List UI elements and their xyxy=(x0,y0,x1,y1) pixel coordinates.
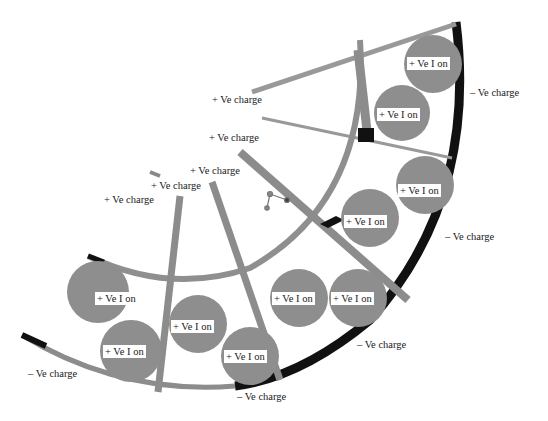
ion-label: + Ve I on xyxy=(171,320,214,333)
ion-label: + Ve I on xyxy=(398,184,441,197)
spoke-5 xyxy=(150,172,160,176)
positive-charge-label: + Ve charge xyxy=(212,94,262,106)
negative-charge-label: – Ve charge xyxy=(443,231,496,243)
ion-label: + Ve I on xyxy=(103,345,146,358)
spoke-4 xyxy=(158,196,180,392)
positive-charge-label: + Ve charge xyxy=(209,132,259,144)
negative-charge-label: – Ve charge xyxy=(468,87,521,99)
diagram-graphic xyxy=(0,0,548,421)
ion-label: + Ve I on xyxy=(377,108,420,121)
positive-charge-label: + Ve charge xyxy=(190,165,240,177)
ion-label: + Ve I on xyxy=(407,57,450,70)
inner-arc xyxy=(88,40,361,279)
junction-block xyxy=(358,128,374,142)
negative-charge-label: – Ve charge xyxy=(26,368,79,380)
ion-label: + Ve I on xyxy=(344,215,387,228)
negative-charge-label: – Ve charge xyxy=(355,339,408,351)
ion-channel-diagram: + Ve I on+ Ve I on+ Ve I on+ Ve I on+ Ve… xyxy=(0,0,548,421)
positive-charge-label: + Ve charge xyxy=(104,194,154,206)
ion-label: + Ve I on xyxy=(272,292,315,305)
positive-charge-label: + Ve charge xyxy=(151,180,201,192)
ion-label: + Ve I on xyxy=(224,350,267,363)
spoke-1 xyxy=(358,50,368,140)
ion-label: + Ve I on xyxy=(95,292,138,305)
ion-label: + Ve I on xyxy=(331,292,374,305)
negative-charge-label: – Ve charge xyxy=(235,391,288,403)
